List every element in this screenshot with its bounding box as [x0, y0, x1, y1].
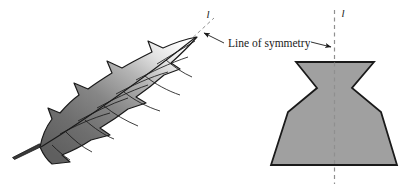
figure-container: l Line of symmetry l: [0, 0, 410, 193]
leaf-figure: [13, 18, 215, 164]
figure-svg: l Line of symmetry l: [0, 0, 410, 193]
leaf-blade: [40, 37, 197, 164]
left-line-label: l: [206, 8, 209, 20]
leaf-stem: [13, 144, 42, 160]
line-of-symmetry-label: Line of symmetry: [228, 37, 311, 50]
leaf-callout-leader: [204, 33, 224, 43]
vase-callout-leader: [311, 42, 331, 47]
vase-polygon: [271, 62, 397, 165]
right-line-label: l: [341, 7, 344, 19]
